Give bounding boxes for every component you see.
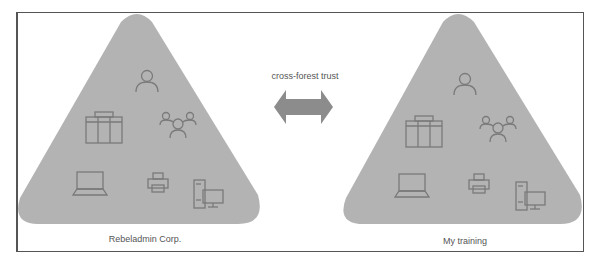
forest-rebeladmin-corp (18, 14, 260, 224)
bidirectional-arrow-icon (274, 90, 333, 124)
diagram-canvas (0, 0, 605, 266)
forest-label-left: Rebeladmin Corp. (80, 234, 210, 244)
trust-label: cross-forest trust (250, 71, 360, 81)
forest-label-right: My training (400, 236, 530, 246)
forest-triangle (343, 14, 581, 224)
forest-my-training (343, 14, 581, 224)
